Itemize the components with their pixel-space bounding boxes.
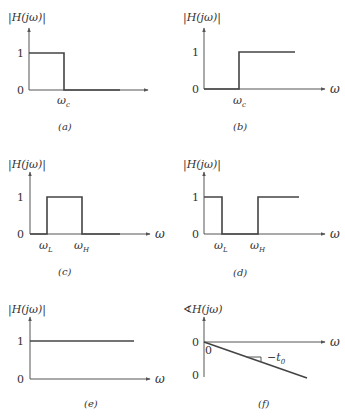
ytick-1: 1 [192,46,199,59]
xtick-wL: ωL [39,239,53,254]
origin-label: 0 [205,344,212,357]
y-axis-label: |H(jω)| [8,303,46,317]
ytick-0: 0 [192,228,199,241]
panel-d-bandstop: |H(jω)| 1 0 ω ωL ωH (d) [183,158,340,278]
ytick-1: 1 [17,47,24,60]
panel-b-highpass: |H(jω)| 1 0 ω ωc (b) [183,11,340,132]
ytick-0: 0 [192,83,199,96]
x-axis-label: ω [330,227,340,241]
highpass-curve [204,52,295,89]
filter-figure: |H(jω)| 1 0 ωc (a) |H(jω)| 1 0 ω ωc (b) … [0,0,345,417]
y-axis-label: |H(jω)| [8,158,46,172]
panel-caption: (b) [233,121,247,132]
panel-caption: (c) [58,266,72,277]
ytick-1: 1 [192,191,199,204]
panel-caption: (d) [233,267,247,278]
bandpass-curve [30,197,120,234]
y-axis-label: ∢H(jω) [183,303,223,316]
panel-e-allpass: |H(jω)| 1 0 ω (e) [8,303,165,409]
panel-caption: (a) [58,121,72,132]
y-axis-label: |H(jω)| [183,11,221,25]
ytick-1: 1 [17,335,24,348]
xtick-wc: ωc [233,94,246,109]
xtick-wH: ωH [74,239,90,254]
panel-caption: (e) [84,398,98,409]
xtick-wL: ωL [214,239,228,254]
x-axis-label: ω [155,227,165,241]
xtick-wc: ωc [57,94,70,109]
y-axis-label: |H(jω)| [183,158,221,172]
ytick-0: 0 [17,373,24,386]
ytick-0: 0 [17,228,24,241]
panel-f-phase: ∢H(jω) 0 0 0 −t0 ω (f) [183,303,340,409]
panel-c-bandpass: |H(jω)| 1 0 ω ωL ωH (c) [8,158,165,277]
y-axis-label: |H(jω)| [8,11,46,25]
slope-annotation: −t0 [267,351,286,366]
lowpass-curve [29,53,120,90]
x-axis-label: ω [330,335,340,349]
ytick-0: 0 [17,84,24,97]
xtick-wH: ωH [250,239,266,254]
panel-caption: (f) [258,398,270,409]
ytick-0-top: 0 [192,336,199,349]
ytick-1: 1 [17,191,24,204]
panel-a-lowpass: |H(jω)| 1 0 ωc (a) [8,11,148,132]
phase-curve [204,342,307,378]
ytick-0-bottom: 0 [192,369,199,382]
bandstop-curve [204,197,299,234]
x-axis-label: ω [330,82,340,96]
x-axis-label: ω [155,372,165,386]
